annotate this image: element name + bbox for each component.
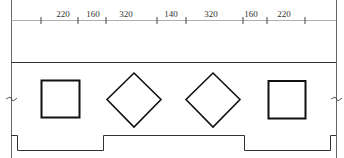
elevation-svg	[0, 0, 344, 158]
base-profile-line	[11, 136, 336, 151]
dimension-label: 220	[56, 10, 70, 19]
diamond-opening-right	[186, 73, 240, 127]
dimension-label: 320	[119, 10, 133, 19]
dimension-label: 320	[204, 10, 218, 19]
square-opening-left	[42, 81, 80, 118]
dimension-label: 220	[277, 10, 291, 19]
dimension-label: 160	[244, 10, 258, 19]
dimension-label: 160	[86, 10, 100, 19]
dimension-label: 140	[164, 10, 178, 19]
diamond-opening-left	[107, 73, 161, 127]
elevation-drawing: 220 160 320 140 320 160 220	[0, 0, 344, 158]
square-opening-right	[269, 81, 306, 119]
